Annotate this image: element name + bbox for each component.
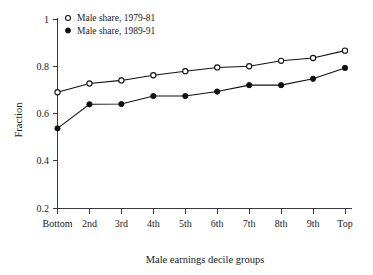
legend-label-1: Male share, 1979-81 xyxy=(77,13,156,23)
data-point-marker xyxy=(342,65,347,70)
data-point-marker xyxy=(247,64,252,69)
data-point-marker xyxy=(119,101,124,106)
x-tick-label: 4th xyxy=(147,218,160,229)
data-point-marker xyxy=(215,89,220,94)
series-line-2 xyxy=(58,68,346,128)
x-tick-label: 6th xyxy=(211,218,224,229)
x-tick-label: 9th xyxy=(307,218,320,229)
legend-marker-1 xyxy=(66,16,71,21)
data-point-marker xyxy=(87,81,92,86)
x-tick-label: 5th xyxy=(179,218,192,229)
y-tick-label: 0.2 xyxy=(37,203,50,214)
chart-legend: Male share, 1979-81Male share, 1989-91 xyxy=(66,13,156,36)
chart-figure: 0.20.40.60.81 Bottom2nd3rd4th5th6th7th8t… xyxy=(0,0,373,275)
x-axis-title: Male earnings decile groups xyxy=(146,254,265,265)
x-tick-label: 2nd xyxy=(82,218,97,229)
y-tick-label: 0.8 xyxy=(37,61,50,72)
data-point-marker xyxy=(151,73,156,78)
data-point-marker xyxy=(247,83,252,88)
x-axis-tick-labels: Bottom2nd3rd4th5th6th7th8th9thTop xyxy=(42,218,352,229)
series-markers xyxy=(55,48,348,131)
line-chart: 0.20.40.60.81 Bottom2nd3rd4th5th6th7th8t… xyxy=(0,0,373,275)
series-line-1 xyxy=(58,51,346,93)
legend-marker-2 xyxy=(66,28,71,33)
data-point-marker xyxy=(151,93,156,98)
y-axis-ticks xyxy=(53,19,58,208)
data-point-marker xyxy=(279,83,284,88)
data-point-marker xyxy=(119,78,124,83)
data-point-marker xyxy=(215,65,220,70)
y-axis-title: Fraction xyxy=(13,102,24,138)
x-tick-label: Top xyxy=(337,218,352,229)
data-point-marker xyxy=(279,58,284,63)
data-point-marker xyxy=(183,69,188,74)
series-lines xyxy=(58,51,346,129)
data-point-marker xyxy=(183,93,188,98)
data-point-marker xyxy=(310,76,315,81)
data-point-marker xyxy=(342,48,347,53)
y-tick-label: 0.4 xyxy=(37,155,50,166)
x-axis-ticks xyxy=(58,209,346,214)
x-tick-label: 3rd xyxy=(115,218,128,229)
x-tick-label: 8th xyxy=(275,218,288,229)
y-tick-label: 0.6 xyxy=(37,108,50,119)
data-point-marker xyxy=(55,126,60,131)
x-tick-label: 7th xyxy=(243,218,256,229)
legend-label-2: Male share, 1989-91 xyxy=(77,26,156,36)
data-point-marker xyxy=(87,102,92,107)
y-axis-tick-labels: 0.20.40.60.81 xyxy=(37,14,50,214)
x-tick-label: Bottom xyxy=(42,218,72,229)
data-point-marker xyxy=(310,55,315,60)
data-point-marker xyxy=(55,90,60,95)
y-tick-label: 1 xyxy=(44,14,49,25)
